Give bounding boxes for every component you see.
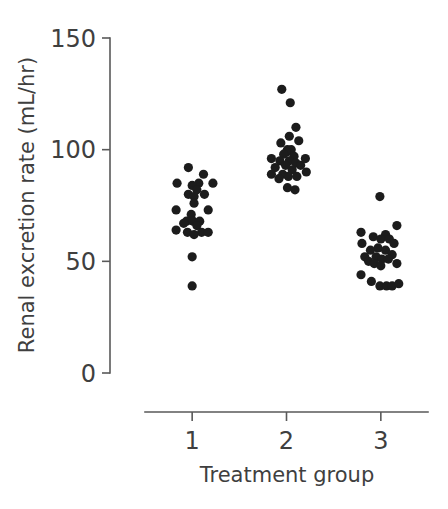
y-tick-label-50: 50	[65, 248, 96, 276]
data-point	[394, 279, 403, 288]
data-point	[172, 205, 181, 214]
data-point	[179, 219, 188, 228]
y-tick-label-150: 150	[50, 25, 96, 53]
data-point	[277, 85, 286, 94]
data-point	[274, 174, 283, 183]
data-point	[284, 172, 293, 181]
data-point	[172, 179, 181, 188]
x-tick-label-2: 2	[279, 427, 294, 455]
data-point	[199, 170, 208, 179]
data-point	[356, 228, 365, 237]
data-point	[200, 190, 209, 199]
data-point	[276, 138, 285, 147]
data-point	[189, 230, 198, 239]
data-point	[188, 281, 197, 290]
y-tick-label-0: 0	[81, 360, 96, 388]
x-axis-title: Treatment group	[199, 463, 375, 487]
data-point	[188, 252, 197, 261]
data-point	[389, 239, 398, 248]
data-point	[302, 167, 311, 176]
data-point	[392, 221, 401, 230]
data-point	[292, 172, 301, 181]
data-point	[294, 136, 303, 145]
data-point	[392, 259, 401, 268]
data-point	[357, 239, 366, 248]
data-point	[267, 154, 276, 163]
data-point	[286, 98, 295, 107]
data-point	[184, 163, 193, 172]
data-point	[204, 228, 213, 237]
data-point	[375, 192, 384, 201]
x-tick-label-1: 1	[185, 427, 200, 455]
data-point	[376, 234, 385, 243]
data-point	[285, 132, 294, 141]
data-point	[384, 255, 393, 264]
x-tick-label-3: 3	[373, 427, 388, 455]
data-point	[356, 270, 365, 279]
data-point	[204, 205, 213, 214]
data-point	[290, 185, 299, 194]
y-tick-label-100: 100	[50, 136, 96, 164]
data-point	[367, 277, 376, 286]
data-point	[189, 199, 198, 208]
data-point	[208, 179, 217, 188]
data-point	[291, 123, 300, 132]
data-point	[172, 225, 181, 234]
y-axis-title: Renal excretion rate (mL/hr)	[15, 57, 39, 353]
renal-excretion-strip-plot: 150100500 Renal excretion rate (mL/hr) 1…	[0, 0, 448, 509]
data-point	[376, 261, 385, 270]
